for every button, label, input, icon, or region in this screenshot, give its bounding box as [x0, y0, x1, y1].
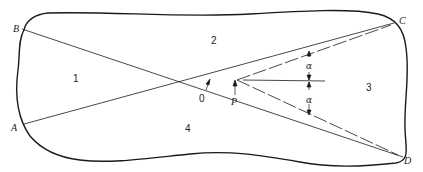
- line-A-C: [24, 23, 394, 124]
- line-B-D: [22, 29, 403, 157]
- pointer-arrow-O: [206, 79, 210, 90]
- horizontal-axis-line: [243, 80, 325, 81]
- dashed-line-P-C: [237, 25, 391, 80]
- label-point-B: B: [13, 23, 19, 34]
- label-angle-upper: α: [306, 61, 312, 71]
- label-point-D: D: [403, 155, 412, 166]
- label-region-4: 4: [185, 123, 191, 134]
- label-region-2: 2: [211, 35, 217, 46]
- label-point-P: P: [230, 96, 237, 107]
- boundary-outline: [17, 11, 408, 166]
- label-point-A: A: [10, 122, 18, 133]
- label-point-O: 0: [199, 93, 205, 104]
- pointer-arrow-P: [233, 80, 237, 95]
- diagram-canvas: B A C D 0 P 1 2 3 4 α α: [0, 0, 423, 172]
- label-region-3: 3: [366, 82, 372, 93]
- label-point-C: C: [399, 15, 406, 26]
- label-angle-lower: α: [306, 95, 312, 105]
- label-region-1: 1: [73, 73, 79, 84]
- dashed-line-P-D: [237, 80, 398, 155]
